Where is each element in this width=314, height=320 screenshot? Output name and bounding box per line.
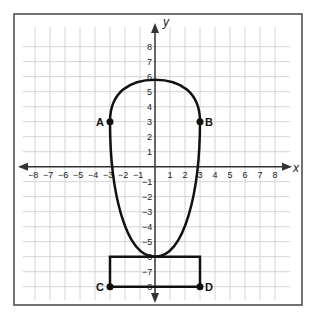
y-tick-label: −2 (142, 192, 152, 202)
point-b-label: B (205, 116, 213, 128)
y-tick-label: 1 (147, 147, 152, 157)
y-tick-label: −7 (142, 267, 152, 277)
point-a-label: A (96, 116, 104, 128)
y-tick-label: 7 (147, 57, 152, 67)
y-tick-label: −1 (142, 177, 152, 187)
point-c-dot (107, 283, 114, 290)
point-c-label: C (96, 281, 104, 293)
point-a-dot (107, 118, 114, 125)
y-tick-label: 8 (147, 42, 152, 52)
y-tick-label: 5 (147, 87, 152, 97)
x-tick-label: −7 (43, 170, 53, 180)
x-tick-label: −6 (58, 170, 68, 180)
y-tick-label: −4 (142, 222, 152, 232)
x-tick-label: −8 (28, 170, 38, 180)
x-tick-label: 4 (213, 170, 218, 180)
point-d-dot (197, 283, 204, 290)
x-tick-label: −4 (88, 170, 98, 180)
y-tick-label: 2 (147, 132, 152, 142)
point-b-dot (197, 118, 204, 125)
frame-border (14, 14, 302, 305)
x-tick-label: 5 (228, 170, 233, 180)
y-tick-label: −3 (142, 207, 152, 217)
point-d-label: D (205, 281, 213, 293)
coordinate-plane: x y −8−7−6−5−4−3−2−11234567812345678−1−2… (0, 0, 314, 320)
y-tick-label: 3 (147, 117, 152, 127)
x-tick-label: 1 (168, 170, 173, 180)
x-tick-label: −5 (73, 170, 83, 180)
x-tick-label: 6 (243, 170, 248, 180)
x-tick-label: 8 (273, 170, 278, 180)
x-tick-label: 2 (183, 170, 188, 180)
x-tick-label: −2 (118, 170, 128, 180)
x-tick-label: 7 (258, 170, 263, 180)
x-axis-label: x (292, 161, 300, 175)
y-tick-label: 4 (147, 102, 152, 112)
y-tick-label: −5 (142, 237, 152, 247)
y-axis-label: y (162, 15, 170, 29)
